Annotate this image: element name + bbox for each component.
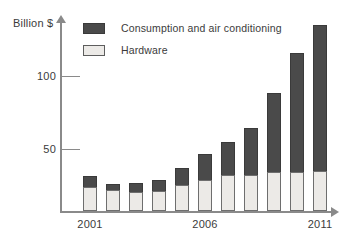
chart-legend: Consumption and air conditioning Hardwar… xyxy=(83,19,282,63)
legend-label-consumption: Consumption and air conditioning xyxy=(121,22,282,34)
bar-segment-hardware-2011 xyxy=(313,171,327,211)
y-axis-title: Billion $ xyxy=(13,17,53,29)
bar-2009 xyxy=(267,93,281,211)
bar-segment-hardware-2005 xyxy=(175,185,189,211)
bar-2006 xyxy=(198,154,212,211)
bar-segment-consumption-2003 xyxy=(129,183,143,192)
legend-item-consumption: Consumption and air conditioning xyxy=(83,19,282,37)
bar-segment-consumption-2011 xyxy=(313,25,327,171)
bar-segment-consumption-2007 xyxy=(221,142,235,175)
bar-segment-consumption-2009 xyxy=(267,93,281,172)
bar-segment-consumption-2004 xyxy=(152,180,166,191)
bar-segment-hardware-2010 xyxy=(290,172,304,211)
light-square-icon xyxy=(83,45,105,56)
bar-2001 xyxy=(83,176,97,211)
x-tick-label-2006: 2006 xyxy=(180,218,230,230)
x-tick-label-2001: 2001 xyxy=(65,218,115,230)
legend-label-hardware: Hardware xyxy=(121,44,168,56)
bar-segment-hardware-2007 xyxy=(221,175,235,211)
legend-item-hardware: Hardware xyxy=(83,41,282,59)
bar-2011 xyxy=(313,25,327,211)
bar-segment-hardware-2006 xyxy=(198,180,212,211)
bar-2004 xyxy=(152,180,166,211)
bar-2007 xyxy=(221,142,235,211)
bar-2010 xyxy=(290,53,304,211)
x-tick-label-2011: 2011 xyxy=(295,218,345,230)
y-tick-mark-50 xyxy=(62,149,80,150)
bar-segment-hardware-2008 xyxy=(244,175,258,211)
bar-2008 xyxy=(244,128,258,211)
bar-2002 xyxy=(106,184,120,211)
bar-segment-hardware-2001 xyxy=(83,187,97,211)
y-tick-mark-100 xyxy=(62,76,80,77)
bar-segment-consumption-2005 xyxy=(175,168,189,185)
bar-segment-hardware-2009 xyxy=(267,172,281,211)
y-tick-label-100: 100 xyxy=(22,70,56,82)
y-tick-label-50: 50 xyxy=(22,143,56,155)
bar-segment-hardware-2004 xyxy=(152,191,166,211)
dark-square-icon xyxy=(83,23,105,34)
bar-2005 xyxy=(175,168,189,211)
bar-segment-hardware-2003 xyxy=(129,192,143,211)
y-axis-line xyxy=(60,22,62,213)
x-axis-line xyxy=(60,211,332,213)
bar-segment-consumption-2006 xyxy=(198,154,212,180)
bar-segment-consumption-2010 xyxy=(290,53,304,172)
bar-2003 xyxy=(129,183,143,211)
bar-segment-consumption-2008 xyxy=(244,128,258,175)
y-axis-arrow-icon xyxy=(56,15,66,23)
x-axis-arrow-icon xyxy=(331,207,339,217)
bar-segment-consumption-2001 xyxy=(83,176,97,187)
stacked-bar-chart: Billion $ 100 50 Consumption and air con… xyxy=(0,0,351,252)
bar-segment-hardware-2002 xyxy=(106,190,120,211)
